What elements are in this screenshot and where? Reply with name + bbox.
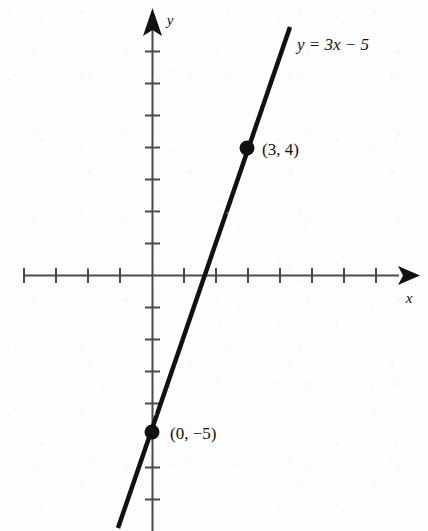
- point-0-minus5-marker: [145, 425, 160, 440]
- x-axis-arrowhead: [398, 266, 420, 285]
- point-0-minus5-label: (0, −5): [170, 424, 216, 443]
- x-axis-label: x: [405, 290, 413, 306]
- coordinate-plane-svg: x y: [0, 0, 428, 531]
- y-axis-label: y: [165, 12, 174, 28]
- line-y-equals-3x-minus-5: [118, 27, 290, 528]
- graph-figure: x y: [0, 0, 428, 531]
- equation-label: y = 3x − 5: [295, 35, 369, 54]
- point-3-4-marker: [240, 141, 255, 156]
- x-axis-group: x: [24, 266, 420, 306]
- y-axis-group: y: [143, 8, 174, 531]
- point-3-4-label: (3, 4): [262, 140, 299, 159]
